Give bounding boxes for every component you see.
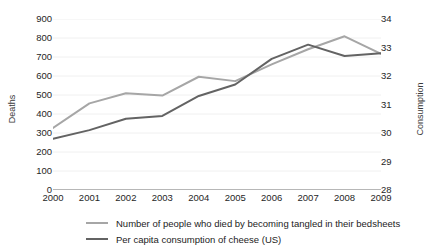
x-axis-tick: 2006 [252, 192, 292, 203]
y-axis-right-tick: 33 [381, 42, 411, 53]
chart-svg [53, 19, 381, 190]
y-axis-right-tick: 31 [381, 99, 411, 110]
series-lines [53, 36, 381, 138]
legend-item-label: Number of people who died by becoming ta… [116, 218, 400, 229]
y-axis-right-tick: 29 [381, 156, 411, 167]
y-axis-left-tick: 300 [22, 127, 52, 138]
chart-page: Deaths Consumption 010020030040050060070… [0, 0, 432, 251]
y-axis-left-tick: 400 [22, 108, 52, 119]
legend-swatch-icon [86, 222, 108, 224]
x-axis-tick: 2009 [361, 192, 401, 203]
x-axis-tick: 2002 [106, 192, 146, 203]
y-axis-left-tick: 100 [22, 165, 52, 176]
series-line-2 [53, 45, 381, 139]
x-axis-tick: 2003 [142, 192, 182, 203]
x-axis-tick: 2000 [33, 192, 73, 203]
legend-item-label: Per capita consumption of cheese (US) [116, 234, 281, 245]
y-axis-left-tick: 500 [22, 89, 52, 100]
plot-area [53, 19, 381, 190]
y-axis-left-title: Deaths [7, 79, 17, 139]
y-axis-left-tick: 900 [22, 13, 52, 24]
y-axis-left-tick: 600 [22, 70, 52, 81]
y-axis-left-tick: 200 [22, 146, 52, 157]
y-axis-right-tick: 30 [381, 127, 411, 138]
x-axis-tick: 2007 [288, 192, 328, 203]
x-axis-tick: 2001 [69, 192, 109, 203]
x-axis-ticks: 2000200120022003200420052006200720082009 [53, 192, 381, 206]
x-axis-tick: 2004 [179, 192, 219, 203]
chart-legend: Number of people who died by becoming ta… [86, 215, 416, 247]
legend-item[interactable]: Number of people who died by becoming ta… [86, 215, 416, 231]
y-axis-right-title: Consumption [415, 64, 425, 154]
x-axis-tick: 2008 [325, 192, 365, 203]
y-axis-right-tick: 32 [381, 70, 411, 81]
y-axis-left-tick: 800 [22, 32, 52, 43]
x-axis-tick: 2005 [215, 192, 255, 203]
y-axis-right-ticks: 28293031323334 [381, 0, 415, 251]
y-axis-right-tick: 34 [381, 13, 411, 24]
y-axis-left-ticks: 0100200300400500600700800900 [18, 0, 52, 251]
legend-item[interactable]: Per capita consumption of cheese (US) [86, 231, 416, 247]
y-axis-left-tick: 700 [22, 51, 52, 62]
legend-swatch-icon [86, 238, 108, 240]
